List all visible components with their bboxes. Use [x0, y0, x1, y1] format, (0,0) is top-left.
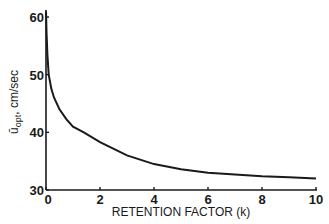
- y-axis-title: ūopt, cm/sec: [7, 70, 23, 134]
- y-axis-symbol: ū: [7, 127, 21, 134]
- x-tick-label: 8: [258, 192, 265, 207]
- y-tick-label: 50: [30, 68, 44, 83]
- chart: 0246810 30405060 RETENTION FACTOR (k) ūo…: [0, 0, 329, 224]
- svg-text:ūopt, cm/sec: ūopt, cm/sec: [7, 70, 23, 134]
- x-axis-title: RETENTION FACTOR (k): [112, 205, 250, 219]
- y-tick-label: 40: [30, 125, 44, 140]
- x-tick-label: 2: [96, 192, 103, 207]
- y-axis-subscript: opt: [13, 114, 23, 127]
- data-curve: [46, 11, 316, 178]
- y-axis-units: , cm/sec: [7, 70, 21, 115]
- y-tick-label: 30: [30, 183, 44, 198]
- y-tick-label: 60: [30, 10, 44, 25]
- x-tick-label: 10: [309, 192, 323, 207]
- x-tick-label: 0: [44, 192, 51, 207]
